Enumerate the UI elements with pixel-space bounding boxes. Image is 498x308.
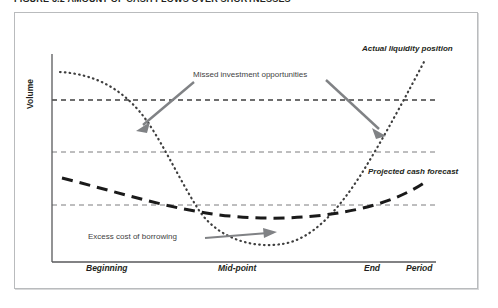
arrow-missed-left	[136, 82, 194, 133]
x-axis-title: Period	[406, 263, 432, 273]
callout-excess-cost-of-borrowing: Excess cost of borrowing	[88, 232, 177, 241]
series-label-projected-cash-forecast: Projected cash forecast	[368, 167, 458, 176]
callout-missed-investment-opportunities: Missed investment opportunities	[193, 70, 307, 79]
arrow-excess-cost	[205, 228, 277, 238]
series-projected-cash-forecast	[62, 178, 428, 218]
y-axis-title: Volume	[22, 64, 38, 124]
x-tick-end: End	[364, 263, 380, 273]
x-tick-beginning: Beginning	[86, 263, 128, 273]
series-label-actual-liquidity-position: Actual liquidity position	[362, 44, 453, 53]
x-tick-midpoint: Mid-point	[218, 263, 256, 273]
arrow-missed-right	[326, 80, 386, 139]
